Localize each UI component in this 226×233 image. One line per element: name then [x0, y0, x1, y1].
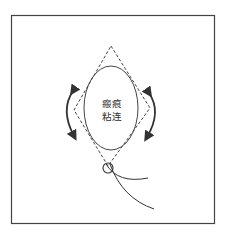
left-curved-double-arrow-icon	[67, 91, 74, 136]
right-curved-double-arrow-icon	[147, 93, 155, 137]
thread-lower	[110, 164, 154, 209]
diagram-canvas: 瘢痕 粘连	[0, 0, 226, 233]
label-line-2: 粘连	[102, 111, 122, 122]
label-line-1: 瘢痕	[102, 98, 122, 109]
